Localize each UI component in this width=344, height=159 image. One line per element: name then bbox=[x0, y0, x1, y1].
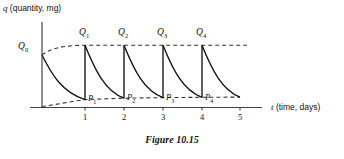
figure-container: q (quantity, mg) t (time, days) Q0 Q1 Q2… bbox=[0, 0, 344, 159]
decay-curve-segment-2 bbox=[124, 45, 163, 97]
peak-label-Q2: Q2 bbox=[118, 28, 128, 39]
peak-envelope-dashed-curve bbox=[42, 45, 247, 55]
peak-label-Q2-sub: 2 bbox=[125, 32, 128, 39]
peak-label-Q3: Q3 bbox=[157, 28, 167, 39]
peak-label-Q3-base: Q bbox=[157, 27, 164, 37]
trough-label-P2: P2 bbox=[127, 93, 135, 104]
peak-label-Q4-sub: 4 bbox=[203, 32, 206, 39]
peak-label-Q3-sub: 3 bbox=[164, 32, 167, 39]
trough-label-P3: P3 bbox=[166, 93, 174, 104]
y-axis-label: q (quantity, mg) bbox=[3, 4, 61, 13]
trough-label-P2-sub: 2 bbox=[132, 98, 135, 104]
x-tick-label-2: 2 bbox=[118, 113, 130, 122]
peak-label-Q4-base: Q bbox=[196, 27, 203, 37]
peak-label-Q0-base: Q bbox=[18, 41, 25, 51]
peak-label-Q2-base: Q bbox=[118, 27, 125, 37]
peak-label-Q1-sub: 1 bbox=[86, 32, 89, 39]
peak-label-Q1-base: Q bbox=[79, 27, 86, 37]
decay-curve-segment-3 bbox=[163, 45, 202, 97]
figure-caption: Figure 10.15 bbox=[0, 135, 344, 145]
peak-label-Q4: Q4 bbox=[196, 28, 206, 39]
decay-curve-segment-4 bbox=[202, 45, 240, 97]
decay-curve-segment-1 bbox=[85, 45, 124, 98]
x-tick-label-5: 5 bbox=[234, 113, 246, 122]
peak-label-Q0: Q0 bbox=[18, 42, 28, 53]
peak-label-Q1: Q1 bbox=[79, 28, 89, 39]
decay-curve-segment-0 bbox=[42, 55, 85, 100]
peak-label-Q0-sub: 0 bbox=[25, 46, 28, 53]
x-tick-label-1: 1 bbox=[79, 113, 91, 122]
y-axis-units: (quantity, mg) bbox=[8, 3, 62, 13]
trough-label-P1: P1 bbox=[88, 94, 96, 105]
trough-label-P4-sub: 4 bbox=[210, 98, 213, 104]
x-axis-label: t (time, days) bbox=[271, 103, 320, 112]
trough-label-P1-sub: 1 bbox=[93, 99, 96, 105]
x-tick-label-3: 3 bbox=[157, 113, 169, 122]
x-axis-units: (time, days) bbox=[274, 102, 321, 112]
trough-label-P3-sub: 3 bbox=[171, 98, 174, 104]
trough-label-P4: P4 bbox=[205, 93, 213, 104]
x-tick-label-4: 4 bbox=[196, 113, 208, 122]
